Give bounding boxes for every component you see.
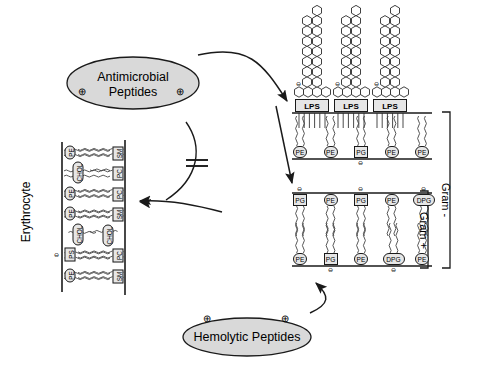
arrow-membrane-penetration [276,106,292,183]
erythrocyte-inner-headgroup-1: CHOL [73,162,84,184]
im-inner-headgroup-1: PG [324,253,338,265]
erythrocyte-inner-headgroup-6: PE [65,268,76,282]
erythrocyte-inner-headgroup-2: PE [65,186,76,200]
arrow-hemolytic-to-erythrocyte [140,201,222,212]
antimicrobial-peptides-line1: Antimicrobial [67,70,199,84]
arrow-antimicrobial-to-erythrocyte-blocked [166,122,196,200]
figure-canvas: Antimicrobial Peptides ⊕ ⊕ Hemolytic Pep… [0,0,500,370]
om-inner-headgroup-2-charge: ⊖ [358,160,363,166]
im-outer-headgroup-2-charge: ⊖ [358,186,363,192]
im-inner-headgroup-1-charge: ⊖ [328,267,333,273]
lps-charge-2: ⊖ [374,80,379,87]
hemolytic-peptides-label: Hemolytic Peptides [183,330,311,344]
im-inner-headgroup-3-charge: ⊖ [391,267,396,273]
im-inner-headgroup-3: DPG [383,253,405,265]
hemolytic-charge-right: ⊕ [281,313,289,324]
im-inner-headgroup-4: PE [415,253,429,265]
erythrocyte-outer-headgroup-5: PC [113,249,124,263]
diagram-svg [0,0,500,370]
erythrocyte-outer-headgroup-2: PC [113,187,124,201]
erythrocyte-inner-headgroup-3: PE [65,207,76,221]
im-outer-headgroup-3: PE [385,194,399,206]
erythrocyte-outer-headgroup-1: PC [113,167,124,181]
om-inner-headgroup-3: PE [385,146,399,158]
erythrocyte-outer-headgroup-0: SM [113,146,124,160]
lps-box-1: LPS [334,99,368,112]
om-inner-headgroup-4: PE [415,146,429,158]
lps-box-0: LPS [295,99,329,112]
im-outer-headgroup-2: PG [354,194,368,206]
im-outer-headgroup-1: PE [324,194,338,206]
erythrocyte-label: Erythrocyte [19,167,33,257]
erythrocyte-outer-headgroup-4: CHOL [103,224,114,246]
hemolytic-charge-left: ⊕ [203,313,211,324]
im-outer-headgroup-4: DPG [413,194,435,206]
im-inner-headgroup-2: PE [354,253,368,265]
blocked-symbol [186,160,208,166]
lps-charge-0: ⊖ [296,80,301,87]
gram-negative-label: Gram - [440,183,452,217]
lps-charge-1: ⊖ [335,80,340,87]
erythrocyte-inner-headgroup-4: CHOL [73,223,84,245]
erythrocyte-inner-headgroup-0: PE [65,145,76,159]
im-outer-headgroup-4-charge: ⊖ [421,186,426,192]
erythrocyte-outer-headgroup-3: SM [113,208,124,222]
antimicrobial-charge-right: ⊕ [176,86,184,97]
erythrocyte-inner-headgroup-5: PS [65,248,76,262]
arrow-hemolytic-to-bacteria [310,283,326,313]
bacterial-envelope [292,5,432,266]
om-inner-headgroup-2: PG [354,146,368,158]
antimicrobial-charge-left: ⊕ [78,86,86,97]
arrow-antimicrobial-to-bacteria [198,52,287,101]
im-outer-headgroup-0-charge: ⊖ [297,186,302,192]
erythrocyte-outer-headgroup-6: SM [113,269,124,283]
lps-box-2: LPS [373,99,407,112]
om-inner-headgroup-1: PE [324,146,338,158]
om-inner-headgroup-0: PE [293,146,307,158]
erythrocyte-inner-headgroup-5-charge: ⊖ [54,251,59,258]
gram-positive-label: Gram + [418,212,430,249]
im-inner-headgroup-0: PE [293,253,307,265]
im-outer-headgroup-0: PG [293,194,307,206]
